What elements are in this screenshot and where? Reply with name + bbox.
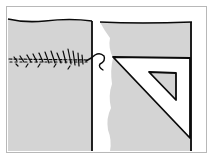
left-fabric-panel <box>8 19 92 151</box>
sewing-diagram <box>0 0 213 158</box>
illustration-canvas <box>0 0 213 158</box>
